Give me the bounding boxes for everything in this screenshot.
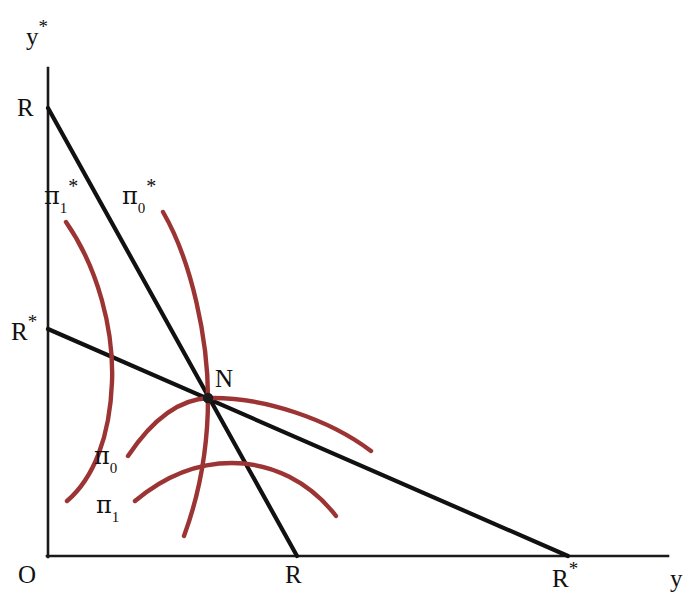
isoprofit-curve-pi-1 <box>135 463 336 516</box>
curve-label-pi-0-star-sub: 0 <box>138 200 146 216</box>
curve-label-pi-1-star-star: * <box>68 175 78 197</box>
curve-label-pi-0-star-star: * <box>146 175 156 197</box>
horizontal-axis-intercept-R-star-text: R <box>552 565 569 592</box>
origin-label-text: O <box>18 561 36 588</box>
y-axis-label: y <box>670 566 683 591</box>
curve-label-pi-1-sub: 1 <box>112 509 120 525</box>
y-axis-label-text: y <box>670 565 683 592</box>
origin-label: O <box>18 562 36 587</box>
curve-label-pi-1-star-base: π <box>44 182 60 210</box>
vertical-axis-intercept-R-text: R <box>17 94 34 121</box>
figure-root: y* R R* O R R* y N π1* π0* π0 π1 <box>0 0 697 608</box>
vertical-axis-intercept-R-star-glyph: * <box>28 311 38 332</box>
curve-label-pi-0-sub: 0 <box>110 460 118 476</box>
curve-label-pi-0: π0 <box>94 444 117 473</box>
equilibrium-point-dot <box>203 393 213 403</box>
reaction-line-R <box>48 108 297 556</box>
y-star-axis-label-star: * <box>39 16 49 37</box>
curve-label-pi-1-star-sub: 1 <box>60 200 68 216</box>
vertical-axis-intercept-R: R <box>17 95 34 120</box>
horizontal-axis-intercept-R-star: R* <box>552 562 578 591</box>
horizontal-axis-intercept-R: R <box>285 562 302 587</box>
horizontal-axis-intercept-R-star-glyph: * <box>569 558 579 579</box>
curve-label-pi-1-star: π1* <box>44 178 77 213</box>
vertical-axis-intercept-R-star-text: R <box>11 318 28 345</box>
isoprofit-curve-pi-0-star <box>163 212 208 536</box>
horizontal-axis-intercept-R-text: R <box>285 561 302 588</box>
curve-label-pi-0-base: π <box>94 442 110 470</box>
curve-label-pi-1: π1 <box>96 493 119 522</box>
equilibrium-point-label: N <box>215 366 233 391</box>
reaction-line-R-star <box>48 329 568 556</box>
y-star-axis-label-text: y <box>26 23 39 50</box>
curve-label-pi-0-star: π0* <box>122 178 155 213</box>
curve-label-pi-1-base: π <box>96 491 112 519</box>
curve-label-pi-0-star-base: π <box>122 182 138 210</box>
equilibrium-point-label-text: N <box>215 365 233 392</box>
y-star-axis-label: y* <box>26 20 48 49</box>
isoprofit-curve-pi-0 <box>128 398 371 456</box>
vertical-axis-intercept-R-star: R* <box>11 315 37 344</box>
